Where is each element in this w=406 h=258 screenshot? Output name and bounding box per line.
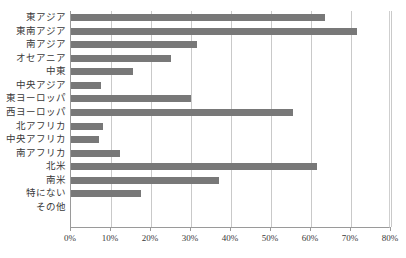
chart-title	[0, 0, 406, 7]
value-tick-label: 0%	[64, 231, 76, 245]
bar-row	[71, 160, 389, 174]
bar-row	[71, 187, 389, 201]
value-tick-label: 10%	[102, 231, 119, 245]
plot-area	[70, 11, 390, 228]
category-label: 特にない	[0, 187, 66, 201]
bar	[71, 123, 103, 130]
category-label: 南アフリカ	[0, 147, 66, 161]
bar-row	[71, 133, 389, 147]
bar-row	[71, 79, 389, 93]
value-tick	[190, 227, 191, 231]
value-tick	[70, 227, 71, 231]
chart-figure: 東アジア東南アジア南アジアオセアニア中東中央アジア東ヨーロッパ西ヨーロッパ北アフ…	[0, 0, 406, 258]
bar-row	[71, 147, 389, 161]
category-label: 北米	[0, 160, 66, 174]
bar-row	[71, 92, 389, 106]
gridline	[391, 11, 392, 227]
value-tick	[230, 227, 231, 231]
category-label: 北アフリカ	[0, 120, 66, 134]
bar-row	[71, 120, 389, 134]
category-label: 中央アジア	[0, 79, 66, 93]
bar-row	[71, 38, 389, 52]
value-axis-labels: 0%10%20%30%40%50%60%70%80%	[70, 231, 390, 245]
bar-row	[71, 52, 389, 66]
bar-row	[71, 65, 389, 79]
bar-row	[71, 25, 389, 39]
bar	[71, 41, 197, 48]
category-label: 南米	[0, 174, 66, 188]
category-label: 中央アフリカ	[0, 133, 66, 147]
bar	[71, 82, 101, 89]
value-tick	[390, 227, 391, 231]
value-tick	[150, 227, 151, 231]
value-tick	[310, 227, 311, 231]
bar-row	[71, 174, 389, 188]
bar	[71, 55, 171, 62]
category-label: オセアニア	[0, 52, 66, 66]
bar-row	[71, 106, 389, 120]
category-label: その他	[0, 201, 66, 215]
category-axis-labels: 東アジア東南アジア南アジアオセアニア中東中央アジア東ヨーロッパ西ヨーロッパ北アフ…	[0, 11, 66, 228]
bar	[71, 150, 120, 157]
bar	[71, 14, 325, 21]
value-tick-label: 20%	[142, 231, 159, 245]
category-label: 東南アジア	[0, 25, 66, 39]
bar	[71, 190, 141, 197]
bar	[71, 177, 219, 184]
category-label: 東ヨーロッパ	[0, 92, 66, 106]
category-label: 西ヨーロッパ	[0, 106, 66, 120]
bar	[71, 28, 357, 35]
bar	[71, 95, 191, 102]
bar-rows	[71, 11, 389, 227]
value-tick-label: 30%	[182, 231, 199, 245]
value-tick-label: 80%	[382, 231, 399, 245]
value-tick	[110, 227, 111, 231]
bar	[71, 163, 317, 170]
bar-row	[71, 11, 389, 25]
value-tick-label: 40%	[222, 231, 239, 245]
bar	[71, 136, 99, 143]
category-label: 南アジア	[0, 38, 66, 52]
category-label: 中東	[0, 65, 66, 79]
value-tick	[270, 227, 271, 231]
value-tick-label: 60%	[302, 231, 319, 245]
bar	[71, 109, 293, 116]
value-tick	[350, 227, 351, 231]
category-label: 東アジア	[0, 11, 66, 25]
value-tick-label: 70%	[342, 231, 359, 245]
value-tick-label: 50%	[262, 231, 279, 245]
bar	[71, 68, 133, 75]
bar-row	[71, 201, 389, 215]
